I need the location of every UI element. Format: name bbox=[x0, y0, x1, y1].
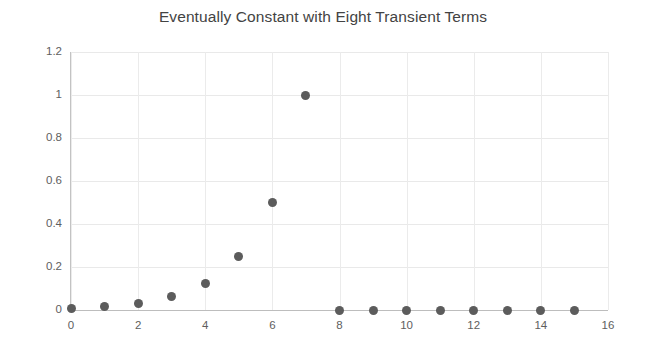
data-point bbox=[503, 306, 512, 315]
plot-area bbox=[71, 52, 608, 310]
x-axis-tick-label: 14 bbox=[521, 320, 561, 332]
data-point bbox=[402, 306, 411, 315]
x-axis-tick-label: 6 bbox=[252, 320, 292, 332]
y-axis-tick-label: 0.2 bbox=[2, 261, 62, 273]
x-axis-tick-label: 8 bbox=[320, 320, 360, 332]
x-axis-tick-label: 10 bbox=[387, 320, 427, 332]
data-point bbox=[201, 279, 210, 288]
x-axis-tick-label: 12 bbox=[454, 320, 494, 332]
data-point bbox=[134, 299, 143, 308]
data-point bbox=[100, 302, 109, 311]
x-axis-tick-label: 2 bbox=[118, 320, 158, 332]
x-axis-tick-label: 16 bbox=[588, 320, 628, 332]
x-axis-tick-label: 0 bbox=[51, 320, 91, 332]
y-axis-tick-label: 1.2 bbox=[2, 46, 62, 58]
data-point bbox=[301, 91, 310, 100]
data-point bbox=[469, 306, 478, 315]
y-axis-tick-label: 0.4 bbox=[2, 218, 62, 230]
data-point bbox=[67, 304, 76, 313]
data-point bbox=[167, 292, 176, 301]
data-point bbox=[570, 306, 579, 315]
chart-figure: Eventually Constant with Eight Transient… bbox=[0, 0, 646, 353]
y-axis-tick-label: 0.6 bbox=[2, 175, 62, 187]
x-axis-tick-label: 4 bbox=[185, 320, 225, 332]
data-point bbox=[234, 252, 243, 261]
y-axis-tick-label: 0.8 bbox=[2, 132, 62, 144]
gridline-vertical bbox=[608, 52, 609, 310]
y-axis-tick-label: 1 bbox=[2, 89, 62, 101]
data-point bbox=[268, 198, 277, 207]
data-point bbox=[536, 306, 545, 315]
data-point bbox=[335, 306, 344, 315]
data-point bbox=[369, 306, 378, 315]
chart-title: Eventually Constant with Eight Transient… bbox=[0, 8, 646, 26]
data-point bbox=[436, 306, 445, 315]
y-axis-tick-label: 0 bbox=[2, 304, 62, 316]
